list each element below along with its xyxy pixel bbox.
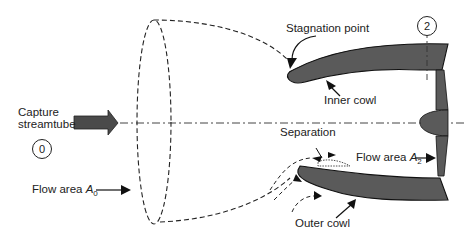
separation-arrow-right-icon <box>328 152 336 158</box>
lower-streamline <box>160 178 290 222</box>
stagnation-point-label: Stagnation point <box>286 22 369 35</box>
separation-bubble <box>318 160 350 166</box>
fan-blade-lower <box>436 136 448 176</box>
inner-cowl-label: Inner cowl <box>324 94 376 107</box>
capture-arrow-icon <box>74 110 118 135</box>
separation-label: Separation <box>280 126 336 139</box>
flow-area-a0-sub: 0 <box>93 189 97 198</box>
outer-cowl-leader <box>336 204 352 218</box>
stagnation-leader <box>292 36 316 60</box>
flow-area-a2-prefix: Flow area <box>356 151 410 163</box>
spill-streamline-3 <box>292 196 314 212</box>
stagnation-arrowhead-icon <box>287 58 297 69</box>
flow-area-a0-label: Flow area A0 <box>32 183 98 200</box>
fan-blade-upper <box>436 70 448 110</box>
outer-cowl-label: Outer cowl <box>295 217 350 230</box>
a0-arrowhead-icon <box>121 185 131 195</box>
inner-cowl-arrowhead-icon <box>326 80 336 90</box>
spill-arrow-2-icon <box>314 191 322 200</box>
upper-streamline <box>154 20 290 62</box>
station-0-marker: 0 <box>32 139 52 159</box>
capture-ellipse <box>137 20 171 224</box>
spinner <box>420 110 448 136</box>
flow-area-a2-label: Flow area A2 <box>356 151 422 168</box>
flow-area-a2-sub: 2 <box>417 157 421 166</box>
station-2-marker: 2 <box>417 16 437 36</box>
upper-cowl <box>287 44 448 83</box>
a2-arrowhead-icon <box>426 153 436 163</box>
flow-area-a0-prefix: Flow area <box>32 183 86 195</box>
capture-streamtube-label-line2: streamtube <box>18 118 76 131</box>
